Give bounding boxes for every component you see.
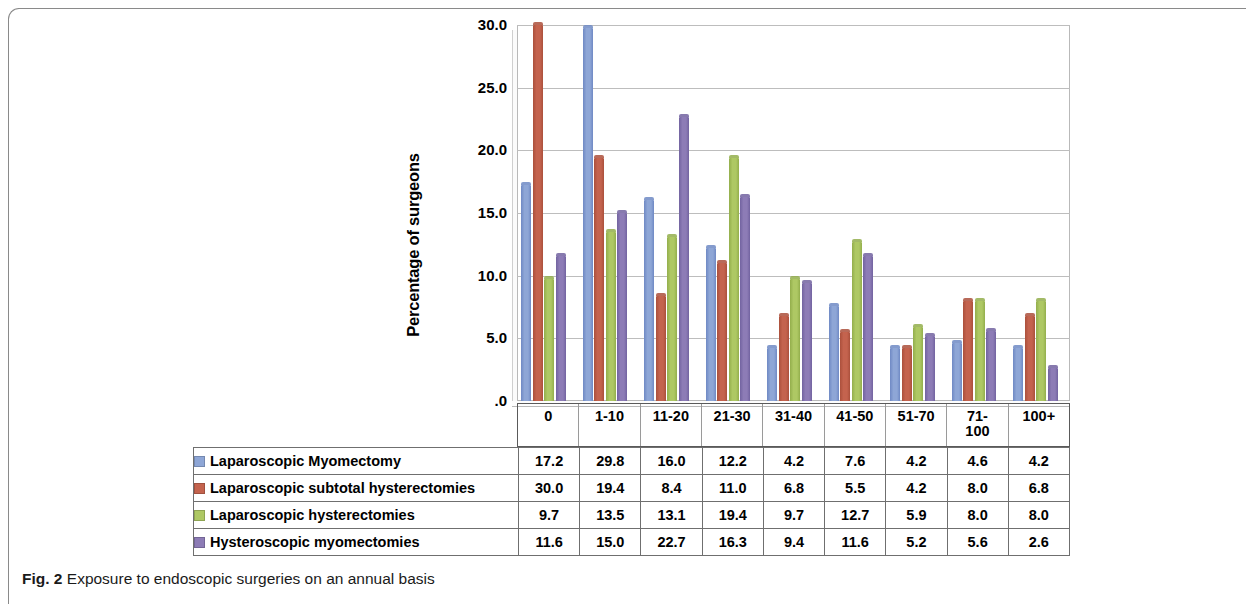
bar-cap	[863, 253, 873, 256]
bar-cap	[706, 245, 716, 248]
legend-swatch-icon	[194, 510, 205, 521]
bar	[583, 28, 593, 401]
table-row: Laparoscopic subtotal hysterectomies30.0…	[194, 475, 1070, 502]
bar-cap	[717, 260, 727, 263]
bar-cap	[767, 345, 777, 348]
data-cell: 5.6	[947, 529, 1008, 556]
bar	[902, 348, 912, 401]
data-cell: 30.0	[519, 475, 580, 502]
figure-caption: Fig. 2 Exposure to endoscopic surgeries …	[22, 570, 435, 588]
bar-cap	[556, 253, 566, 256]
data-cell: 13.5	[580, 502, 641, 529]
bar	[594, 158, 604, 401]
bar-cap	[594, 155, 604, 158]
table-row: Laparoscopic hysterectomies9.713.513.119…	[194, 502, 1070, 529]
data-cell: 6.8	[1008, 475, 1069, 502]
bar-group	[947, 25, 1008, 401]
x-axis-category: 31-40	[763, 404, 824, 446]
bar	[913, 327, 923, 401]
data-cell: 16.0	[641, 448, 702, 475]
bar-cap	[829, 303, 839, 306]
bar	[644, 200, 654, 401]
bar	[606, 232, 616, 401]
bar-group	[824, 25, 885, 401]
bar-cap	[1036, 298, 1046, 301]
data-cell: 8.0	[1008, 502, 1069, 529]
data-cell: 7.6	[825, 448, 886, 475]
bar	[829, 306, 839, 401]
x-axis-category-strip: 01-1011-2021-3031-4041-5051-7071-100100+	[517, 403, 1070, 447]
data-cell: 19.4	[580, 475, 641, 502]
bar	[679, 117, 689, 402]
data-cell: 12.7	[825, 502, 886, 529]
x-axis-category: 0	[518, 404, 579, 446]
data-table: Laparoscopic Myomectomy17.229.816.012.24…	[193, 447, 1070, 556]
bar-cap	[667, 234, 677, 237]
bar-group	[517, 25, 578, 401]
data-cell: 6.8	[763, 475, 824, 502]
legend-series-cell: Laparoscopic Myomectomy	[194, 448, 519, 475]
y-tick-label: 30.0	[437, 16, 507, 33]
bar	[656, 296, 666, 401]
bar-group	[1009, 25, 1070, 401]
data-cell: 19.4	[702, 502, 763, 529]
data-cell: 8.0	[947, 475, 1008, 502]
data-cell: 4.2	[886, 448, 947, 475]
data-cell: 8.4	[641, 475, 702, 502]
bar	[1036, 301, 1046, 401]
x-axis-category: 71-100	[947, 404, 1008, 446]
data-cell: 13.1	[641, 502, 702, 529]
bar	[986, 331, 996, 401]
bar-chart: Percentage of surgeons 30.025.020.015.01…	[0, 0, 1120, 420]
bar	[717, 263, 727, 401]
data-cell: 16.3	[702, 529, 763, 556]
bar-cap	[521, 182, 531, 185]
y-tick-label: 15.0	[437, 204, 507, 221]
bar	[890, 348, 900, 401]
figure-number: Fig. 2	[22, 570, 62, 587]
data-cell: 8.0	[947, 502, 1008, 529]
x-axis-category: 100+	[1009, 404, 1069, 446]
bar	[975, 301, 985, 401]
bar-cap	[533, 22, 543, 25]
legend-swatch-icon	[194, 456, 205, 467]
bar-group	[701, 25, 762, 401]
bar-cap	[840, 329, 850, 332]
bar	[740, 197, 750, 401]
bar	[963, 301, 973, 401]
data-cell: 29.8	[580, 448, 641, 475]
y-tick-label: 20.0	[437, 141, 507, 158]
x-axis-category: 21-30	[702, 404, 763, 446]
bar-cap	[679, 114, 689, 117]
legend-series-label: Laparoscopic subtotal hysterectomies	[210, 480, 475, 496]
legend-series-label: Hysteroscopic myomectomies	[210, 534, 420, 550]
y-tick-label: 10.0	[437, 267, 507, 284]
y-axis-title: Percentage of surgeons	[404, 100, 423, 390]
legend-series-label: Laparoscopic Myomectomy	[210, 453, 401, 469]
legend-swatch-icon	[194, 537, 205, 548]
data-cell: 5.2	[886, 529, 947, 556]
bar-cap	[779, 313, 789, 316]
bar-cap	[925, 333, 935, 336]
bar-cap	[1048, 365, 1058, 368]
bar	[1025, 316, 1035, 401]
bar-cap	[1025, 313, 1035, 316]
bar-cap	[617, 210, 627, 213]
data-cell: 4.2	[763, 448, 824, 475]
bar-cap	[729, 155, 739, 158]
bar	[706, 248, 716, 401]
bar	[767, 348, 777, 401]
y-tick-label: .0	[437, 392, 507, 409]
bar-cap	[890, 345, 900, 348]
bar-cap	[656, 293, 666, 296]
y-tick-label: 5.0	[437, 329, 507, 346]
bar-cap	[913, 324, 923, 327]
bar-cap	[902, 345, 912, 348]
bar	[863, 256, 873, 401]
y-tick-label: 25.0	[437, 79, 507, 96]
x-axis-category: 41-50	[825, 404, 886, 446]
data-table-body: Laparoscopic Myomectomy17.229.816.012.24…	[194, 448, 1070, 556]
bar-cap	[802, 280, 812, 283]
bar-cap	[544, 276, 554, 279]
bar-cap	[644, 197, 654, 200]
